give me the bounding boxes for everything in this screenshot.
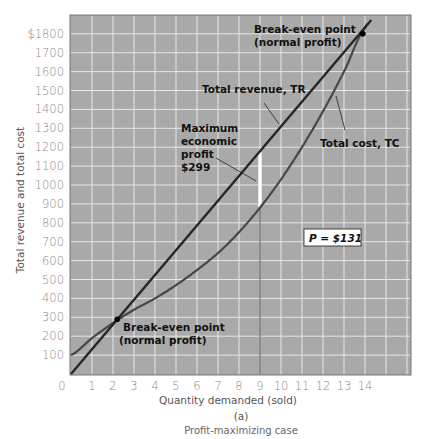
profit-label-line1: Maximum <box>181 122 238 134</box>
y-tick-label: 800 <box>42 216 64 230</box>
tr-label: Total revenue, TR <box>202 83 306 95</box>
profit-label-line2: economic <box>181 135 237 147</box>
x-tick-label: 14 <box>358 379 373 393</box>
profit-label-line4: $299 <box>181 161 210 173</box>
chart: 1002003004005006007008009001000110012001… <box>0 0 421 439</box>
x-tick-label: 1 <box>88 379 95 393</box>
y-tick-label: 200 <box>42 329 64 343</box>
y-tick-label: 700 <box>42 235 64 249</box>
y-tick-label: 300 <box>42 310 64 324</box>
breakeven-bottom-label-line1: Break-even point <box>123 321 225 333</box>
x-tick-label: 8 <box>235 379 242 393</box>
y-tick-label: 1400 <box>35 102 64 116</box>
y-tick-label: 600 <box>42 254 64 268</box>
x-tick-label: 3 <box>130 379 137 393</box>
y-tick-label: 1700 <box>35 46 64 60</box>
y-tick-label: 100 <box>42 348 64 362</box>
break-even-point-top <box>360 31 366 37</box>
price-label: P = $131 <box>309 232 362 244</box>
x-axis-title: Quantity demanded (sold) <box>159 394 297 406</box>
x-tick-label: 11 <box>295 379 310 393</box>
y-tick-label: 1600 <box>35 65 64 79</box>
x-axis-ticks: 01234567891011121314 <box>58 379 372 393</box>
y-tick-label: 400 <box>42 291 64 305</box>
break-even-point-bottom <box>114 316 120 322</box>
y-tick-label: 900 <box>42 197 64 211</box>
breakeven-top-label-line1: Break-even point <box>254 23 356 35</box>
x-tick-label: 10 <box>274 379 289 393</box>
tc-label: Total cost, TC <box>320 137 400 149</box>
y-tick-label: 1300 <box>35 121 64 135</box>
y-tick-label: $1800 <box>27 27 64 41</box>
panel-label: (a) <box>234 410 249 422</box>
y-tick-label: 1100 <box>35 159 64 173</box>
plot-area <box>70 15 411 375</box>
x-tick-label: 5 <box>172 379 179 393</box>
x-tick-label: 0 <box>58 379 65 393</box>
x-tick-label: 6 <box>193 379 200 393</box>
y-tick-label: 1000 <box>35 178 64 192</box>
x-tick-label: 9 <box>256 379 263 393</box>
y-tick-label: 1500 <box>35 84 64 98</box>
x-tick-label: 7 <box>214 379 221 393</box>
y-axis-ticks: 1002003004005006007008009001000110012001… <box>27 27 64 362</box>
x-tick-label: 2 <box>109 379 116 393</box>
x-tick-label: 13 <box>337 379 352 393</box>
breakeven-top-label-line2: (normal profit) <box>254 36 341 48</box>
profit-label-line3: profit <box>181 148 214 160</box>
breakeven-bottom-label-line2: (normal profit) <box>119 334 206 346</box>
y-axis-title: Total revenue and total cost <box>14 127 26 274</box>
y-tick-label: 500 <box>42 273 64 287</box>
x-tick-label: 4 <box>151 379 158 393</box>
x-tick-label: 12 <box>316 379 331 393</box>
caption: Profit-maximizing case <box>184 425 298 436</box>
y-tick-label: 1200 <box>35 140 64 154</box>
